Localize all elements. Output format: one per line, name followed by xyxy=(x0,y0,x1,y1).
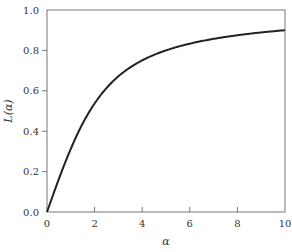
plot-frame xyxy=(47,10,285,212)
y-tick-label: 0.0 xyxy=(23,207,39,218)
x-tick-label: 0 xyxy=(44,218,50,229)
y-tick-label: 0.4 xyxy=(23,126,39,137)
x-tick-label: 10 xyxy=(279,218,292,229)
x-tick-label: 4 xyxy=(139,218,145,229)
x-tick-label: 8 xyxy=(234,218,240,229)
y-tick-label: 0.2 xyxy=(23,166,39,177)
chart: 0.00.20.40.60.81.0 0246810 α L(α) xyxy=(0,0,292,252)
x-axis: 0246810 xyxy=(44,207,292,229)
y-tick-label: 0.6 xyxy=(23,85,39,96)
y-tick-label: 0.8 xyxy=(23,45,39,56)
y-tick-label: 1.0 xyxy=(23,5,39,16)
x-tick-label: 2 xyxy=(91,218,97,229)
data-line xyxy=(47,30,285,212)
y-axis-label: L(α) xyxy=(2,99,15,123)
x-tick-label: 6 xyxy=(187,218,193,229)
y-axis: 0.00.20.40.60.81.0 xyxy=(23,5,47,218)
x-axis-label: α xyxy=(162,235,170,248)
